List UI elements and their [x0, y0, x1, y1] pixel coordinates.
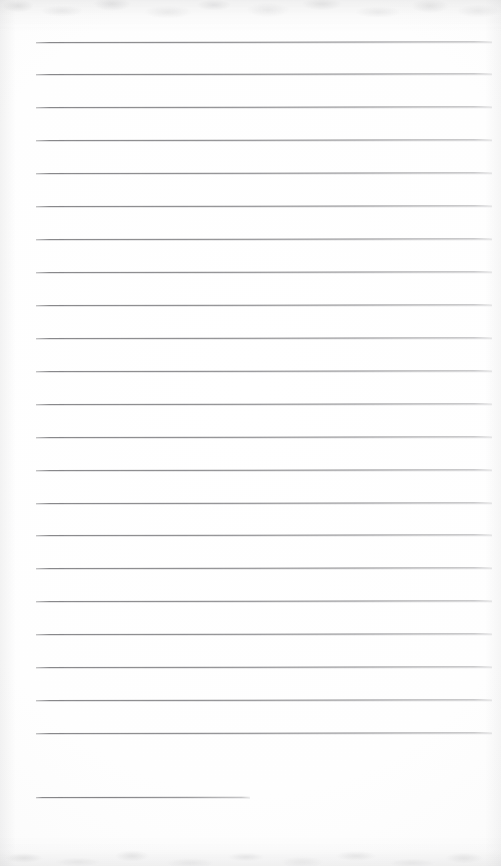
- ruled-line: [36, 699, 492, 701]
- ruled-line: [36, 140, 492, 142]
- ruled-lines-layer: [0, 0, 501, 866]
- ruled-line: [36, 666, 492, 668]
- ruled-line: [36, 370, 492, 372]
- ruled-line: [36, 732, 492, 734]
- ruled-line: [36, 238, 492, 240]
- ruled-line: [36, 271, 492, 273]
- ruled-line: [36, 502, 492, 504]
- ruled-line: [36, 41, 492, 43]
- ruled-line: [36, 337, 492, 339]
- ruled-line-short: [36, 797, 250, 798]
- ruled-line: [36, 469, 492, 471]
- ruled-line: [36, 436, 492, 438]
- ruled-line: [36, 403, 492, 405]
- ruled-line: [36, 107, 492, 109]
- ruled-line: [36, 74, 492, 76]
- ruled-line: [36, 568, 492, 570]
- ruled-line: [36, 633, 492, 635]
- ruled-line: [36, 600, 492, 602]
- ruled-line: [36, 304, 492, 306]
- ruled-line: [36, 535, 492, 537]
- ruled-line: [36, 205, 492, 207]
- scanned-page: [0, 0, 501, 866]
- ruled-line: [36, 172, 492, 174]
